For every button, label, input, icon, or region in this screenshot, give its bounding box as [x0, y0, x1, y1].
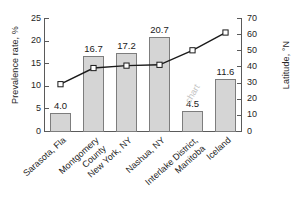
y-tick-label-left: 5 — [1, 104, 41, 113]
y-tick-label-right: 50 — [247, 46, 287, 55]
y-tick-label-right: 40 — [247, 62, 287, 71]
y-tick-label-right: 60 — [247, 30, 287, 39]
y-tick-label-left: 15 — [1, 59, 41, 68]
latitude-marker — [124, 63, 129, 68]
y-tick-label-left: 10 — [1, 81, 41, 90]
latitude-line-series — [44, 18, 242, 132]
y-tick-label-right: 0 — [247, 127, 287, 136]
latitude-marker — [190, 48, 195, 53]
y-tick-label-right: 20 — [247, 94, 287, 103]
latitude-marker — [157, 62, 162, 67]
y-tick-label-right: 30 — [247, 78, 287, 87]
latitude-marker — [58, 82, 63, 87]
chart-container: Prevalence rate, % Latitude, °N 05101520… — [0, 0, 292, 219]
y-tick-label-left: 25 — [1, 14, 41, 23]
latitude-marker — [91, 65, 96, 70]
latitude-marker — [223, 30, 228, 35]
latitude-line — [61, 33, 226, 85]
y-tick-label-right: 70 — [247, 14, 287, 23]
y-tick-label-left: 20 — [1, 36, 41, 45]
y-tick-label-right: 10 — [247, 110, 287, 119]
y-tick-label-left: 0 — [1, 127, 41, 136]
plot-area: 0510152025 010203040506070 4.016.717.220… — [44, 18, 242, 131]
